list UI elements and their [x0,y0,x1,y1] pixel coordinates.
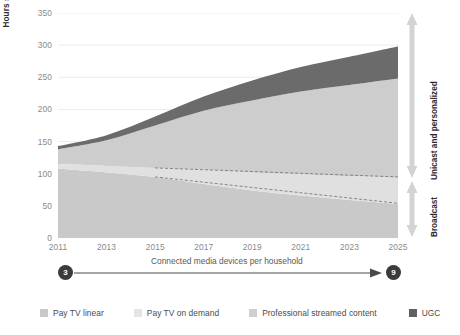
y-tick-label: 300 [26,40,52,50]
legend-item[interactable]: Professional streamed content [249,308,377,318]
connector-arrow-icon [74,268,384,278]
x-tick-label: 2015 [135,242,175,252]
legend-swatch-icon [249,309,257,317]
right-label-broadcast: Broadcast [430,197,439,237]
legend-label: Professional streamed content [262,308,377,318]
y-tick-label: 100 [26,169,52,179]
y-tick-label: 350 [26,8,52,18]
x-tick-label: 2025 [378,242,418,252]
legend-label: UGC [422,308,441,318]
y-tick-label: 250 [26,72,52,82]
plot-area [58,13,398,238]
right-range-arrows [404,10,420,242]
right-label-unicast: Unicast and personalized [430,81,439,180]
connector-start-badge: 3 [58,265,73,280]
stacked-area-svg [58,13,398,238]
x-tick-label: 2013 [87,242,127,252]
y-tick-label: 150 [26,137,52,147]
legend-label: Pay TV on demand [147,308,219,318]
x-tick-label: 2011 [38,242,78,252]
connector-label: Connected media devices per household [151,256,303,266]
broadcast-arrow-icon [407,181,418,237]
x-tick-label: 2019 [232,242,272,252]
legend-swatch-icon [40,309,48,317]
unicast-arrow-icon [407,13,418,178]
legend-swatch-icon [409,309,417,317]
x-tick-label: 2023 [329,242,369,252]
legend-label: Pay TV linear [53,308,104,318]
legend-item[interactable]: UGC [409,308,441,318]
legend-item[interactable]: Pay TV on demand [134,308,219,318]
x-tick-label: 2017 [184,242,224,252]
y-axis-title: Hours spent per household per month (glo… [2,0,18,38]
y-axis-title-container: Hours spent per household per month (glo… [0,10,20,242]
legend-item[interactable]: Pay TV linear [40,308,104,318]
connector-end-badge: 9 [386,265,401,280]
chart-figure: Hours spent per household per month (glo… [0,0,460,335]
x-tick-label: 2021 [281,242,321,252]
y-tick-label: 50 [26,201,52,211]
y-tick-label: 200 [26,104,52,114]
chart-legend: Pay TV linearPay TV on demandProfessiona… [40,306,440,320]
legend-swatch-icon [134,309,142,317]
